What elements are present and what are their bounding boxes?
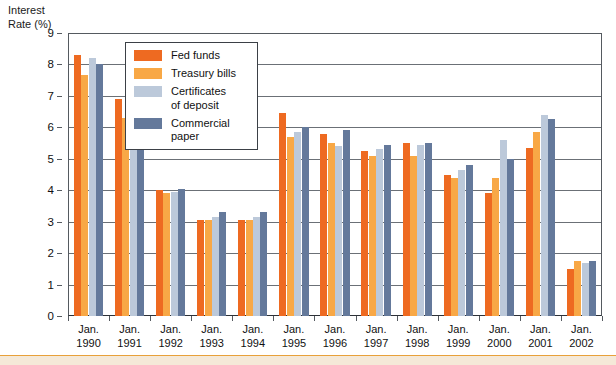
x-tick-label: Jan. 1993 [191,323,232,350]
bar [253,217,260,316]
bar [287,137,294,316]
bar [115,99,122,316]
y-tick-mark [57,316,62,317]
bar [294,132,301,316]
x-tick-mark [561,316,562,321]
legend-swatch [134,68,162,79]
y-tick-label: 2 [48,247,54,259]
bar [492,178,499,316]
bar [156,190,163,316]
legend-label: Certificates of deposit [171,85,226,111]
legend-item[interactable]: Certificates of deposit [134,85,250,111]
bar [507,159,514,316]
legend-item[interactable]: Commercial paper [134,117,250,143]
bar-group [479,33,520,316]
legend-label: Commercial paper [171,117,230,143]
legend-label: Fed funds [171,49,220,62]
bar [582,263,589,316]
y-tick-label: 9 [48,27,54,39]
x-tick-label: Jan. 1991 [109,323,150,350]
bar [219,212,226,316]
y-axis-ticks: 0123456789 [0,33,62,316]
y-tick-label: 1 [48,279,54,291]
bar [163,193,170,316]
bar [533,132,540,316]
legend-swatch [134,118,162,129]
footer-band [0,356,616,365]
bar [320,134,327,316]
bar [567,269,574,316]
y-tick-mark [57,33,62,34]
x-tick-mark [191,316,192,321]
x-tick-label: Jan. 2000 [479,323,520,350]
y-tick-label: 5 [48,153,54,165]
bar [335,146,342,316]
y-tick-mark [57,127,62,128]
bar [238,220,245,316]
x-tick-mark [356,316,357,321]
bar [384,145,391,316]
bar [212,217,219,316]
bar-group [314,33,355,316]
bar [376,149,383,316]
legend-item[interactable]: Treasury bills [134,67,250,80]
x-tick-label: Jan. 1999 [438,323,479,350]
x-tick-label: Jan. 1997 [356,323,397,350]
bar [260,212,267,316]
y-tick-mark [57,159,62,160]
x-tick-mark [68,316,69,321]
bar [500,140,507,316]
bar [96,64,103,316]
bar [444,175,451,317]
bar [417,145,424,316]
y-tick-label: 4 [48,184,54,196]
bar [589,261,596,316]
x-tick-label: Jan. 1990 [68,323,109,350]
bar-group [397,33,438,316]
bar [369,156,376,316]
bar [361,151,368,316]
x-tick-label: Jan. 1995 [273,323,314,350]
x-tick-label: Jan. 2002 [561,323,602,350]
legend-item[interactable]: Fed funds [134,49,250,62]
bar [279,113,286,316]
bar-group [438,33,479,316]
x-tick-mark [397,316,398,321]
bar [328,143,335,316]
bar [89,58,96,316]
bar [410,156,417,316]
y-tick-label: 7 [48,90,54,102]
y-tick-label: 8 [48,58,54,70]
x-tick-mark [602,316,603,321]
interest-rate-bar-chart: Interest Rate (%) 0123456789 Jan. 1990Ja… [0,0,616,365]
bar [403,143,410,316]
bar [458,170,465,316]
x-tick-mark [479,316,480,321]
y-tick-label: 6 [48,121,54,133]
bar [74,55,81,316]
bar-group [273,33,314,316]
x-tick-mark [273,316,274,321]
y-tick-mark [57,222,62,223]
x-tick-label: Jan. 1996 [314,323,355,350]
bar [171,192,178,316]
bar [526,148,533,316]
x-tick-label: Jan. 1992 [150,323,191,350]
y-tick-label: 0 [48,310,54,322]
x-tick-mark [150,316,151,321]
bar [451,178,458,316]
bar [485,193,492,316]
bar-group [561,33,602,316]
x-tick-mark [520,316,521,321]
legend-swatch [134,50,162,61]
y-axis-title: Interest Rate (%) [8,4,51,31]
bar [205,220,212,316]
bar [541,115,548,316]
y-tick-mark [57,285,62,286]
x-tick-mark [314,316,315,321]
bar [81,75,88,316]
x-tick-mark [232,316,233,321]
y-tick-label: 3 [48,216,54,228]
x-tick-label: Jan. 2001 [520,323,561,350]
bar [466,165,473,316]
